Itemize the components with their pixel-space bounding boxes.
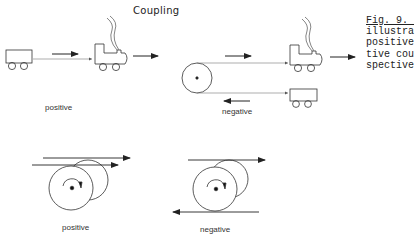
roller-icon [193,160,248,211]
caption-line: positive [366,37,414,48]
locomotive-icon [95,16,127,71]
caption-line: tive cou [366,49,414,60]
caption-line: Fig. 9. [366,15,414,26]
locomotive-icon [290,17,322,72]
figure-caption: Fig. 9. illustra positive tive cou spect… [366,15,414,71]
caption-line: illustra [366,26,414,37]
negative-label: negative [222,107,252,116]
positive-label: positive [45,103,72,112]
train-car-icon [290,89,317,107]
positive-label: positive [62,223,89,232]
train-car-icon [6,50,32,70]
roller-icon [49,160,108,210]
negative-label: negative [200,225,230,234]
caption-line: spective [366,60,414,71]
diagram-drawing [0,0,416,236]
pulley-icon [182,63,212,93]
